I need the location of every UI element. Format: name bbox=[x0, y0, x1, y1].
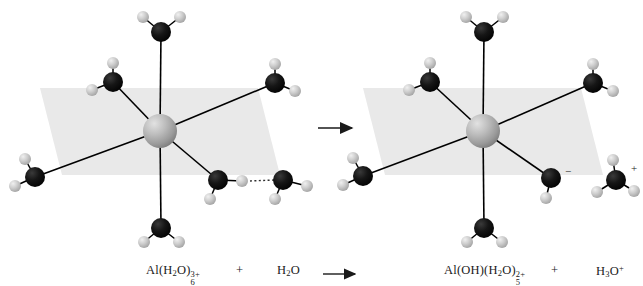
reactant-ligand-count: 6 bbox=[191, 277, 195, 286]
hydrogen-atom bbox=[269, 193, 281, 205]
oxygen-atom bbox=[474, 218, 494, 238]
product-element: Al bbox=[444, 263, 457, 277]
reactant-element: Al bbox=[146, 263, 159, 277]
oxygen-atom bbox=[474, 22, 494, 42]
hydrogen-atom bbox=[497, 11, 509, 23]
hydronium-hydrogen-atom bbox=[628, 185, 640, 197]
product-complex-formula: Al(OH)(H2O)2+5 bbox=[444, 263, 524, 278]
right-complex-group bbox=[337, 11, 640, 248]
hydrogen-atom bbox=[289, 85, 301, 97]
chemical-equation: Al(H2O)3+6 + H2O Al(OH)(H2O)2+5 + H3O+ bbox=[0, 256, 643, 286]
oxygen-atom bbox=[353, 166, 373, 186]
hydrogen-atom bbox=[138, 236, 150, 248]
hydrogen-atom bbox=[424, 57, 436, 69]
product-ligand-count: 5 bbox=[516, 277, 520, 286]
hydrogen-atom bbox=[19, 153, 31, 165]
hydrogen-atom bbox=[173, 236, 185, 248]
hydrogen-atom bbox=[337, 179, 349, 191]
hydrogen-bond bbox=[250, 180, 274, 181]
oxygen-atom-hydroxide bbox=[541, 168, 561, 188]
hydronium-charge-label: + bbox=[631, 163, 637, 174]
equation-plus-left: + bbox=[236, 263, 243, 278]
water-h: H bbox=[277, 263, 286, 277]
product-hydronium-formula: H3O+ bbox=[596, 263, 624, 279]
oxygen-atom bbox=[583, 73, 603, 93]
oxygen-atom bbox=[420, 72, 440, 92]
hydrogen-atom bbox=[86, 84, 98, 96]
hydrogen-atom bbox=[137, 11, 149, 23]
oxygen-atom-hydronium bbox=[606, 170, 626, 190]
oxygen-atom-free-water bbox=[273, 170, 293, 190]
product-hydroxide-group: (OH) bbox=[457, 263, 484, 277]
equation-plus-right: + bbox=[551, 263, 558, 278]
oxygen-atom bbox=[103, 72, 123, 92]
hydroxide-hydrogen-atom bbox=[540, 192, 552, 204]
hydrogen-atom bbox=[301, 180, 313, 192]
equation-arrow bbox=[323, 268, 363, 280]
hydrogen-atom bbox=[236, 175, 248, 187]
reactant-complex-formula: Al(H2O)3+6 bbox=[146, 263, 198, 278]
hydrogen-atom bbox=[460, 11, 472, 23]
aluminium-atom bbox=[143, 114, 177, 148]
hydronium-h: H bbox=[596, 264, 605, 278]
oxygen-atom bbox=[151, 218, 171, 238]
hydrogen-atom bbox=[269, 58, 281, 70]
hydrogen-atom bbox=[607, 85, 619, 97]
hydronium-hydrogen-atom bbox=[591, 186, 603, 198]
water-o: O bbox=[291, 263, 300, 277]
figure-root: − + Al(H2O)3+6 + H2O Al(OH)(H2O)2+5 + H3… bbox=[0, 0, 643, 286]
reactant-ligand-o: O bbox=[177, 263, 186, 277]
reactant-water-formula: H2O bbox=[277, 263, 300, 278]
oxygen-atom bbox=[25, 167, 45, 187]
product-ligand-h: H bbox=[488, 263, 497, 277]
hydrogen-atom bbox=[496, 236, 508, 248]
oxygen-atom bbox=[265, 73, 285, 93]
hydronium-hydrogen-atom bbox=[607, 154, 619, 166]
product-ligand-o: O bbox=[502, 263, 511, 277]
hydrogen-atom bbox=[347, 152, 359, 164]
left-complex-group bbox=[9, 11, 313, 248]
hydrogen-atom bbox=[403, 84, 415, 96]
hydronium-o: O bbox=[610, 264, 619, 278]
hydroxide-charge-label: − bbox=[565, 166, 571, 177]
hydrogen-atom bbox=[9, 180, 21, 192]
hydrogen-atom bbox=[204, 193, 216, 205]
hydrogen-atom bbox=[461, 236, 473, 248]
oxygen-atom bbox=[151, 22, 171, 42]
molecular-diagram bbox=[0, 0, 643, 286]
hydrogen-atom bbox=[174, 11, 186, 23]
oxygen-atom bbox=[208, 170, 228, 190]
hydrogen-atom bbox=[107, 57, 119, 69]
aluminium-atom bbox=[466, 114, 500, 148]
reactant-ligand-h: H bbox=[163, 263, 172, 277]
hydronium-charge: + bbox=[619, 263, 624, 273]
hydrogen-atom bbox=[587, 58, 599, 70]
